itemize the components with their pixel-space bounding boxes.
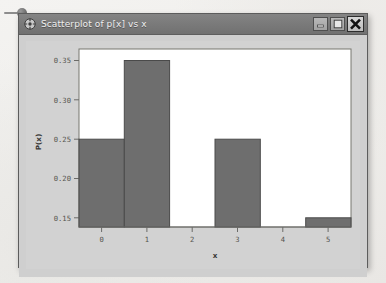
- window-title: Scatterplot of p[x] vs x: [41, 19, 313, 30]
- bar-x3: [215, 139, 260, 227]
- window-controls: [313, 16, 364, 32]
- x-tick-label: 2: [190, 235, 194, 244]
- bar-x1: [124, 61, 169, 228]
- y-tick-label: 0.25: [54, 135, 71, 144]
- chart-panel: 0.35 0.30 0.25 0.20 0.15 P(x): [26, 41, 360, 269]
- window-body: 0.35 0.30 0.25 0.20 0.15 P(x): [19, 35, 367, 277]
- minimize-button[interactable]: [313, 17, 328, 31]
- bar-x5: [306, 218, 351, 227]
- y-tick-label: 0.35: [54, 56, 71, 65]
- minimize-icon: [316, 20, 325, 29]
- bar-x0: [79, 139, 124, 227]
- x-tick-label: 0: [99, 235, 103, 244]
- x-tick-label: 4: [281, 235, 285, 244]
- maximize-icon: [333, 19, 343, 29]
- close-icon: [349, 18, 362, 31]
- x-axis-title: x: [213, 251, 218, 260]
- x-tick-label: 3: [235, 235, 239, 244]
- close-button[interactable]: [347, 16, 364, 32]
- y-tick-label: 0.15: [54, 214, 71, 223]
- window-title-bar[interactable]: Scatterplot of p[x] vs x: [19, 14, 367, 35]
- y-axis-title: P(x): [34, 134, 43, 150]
- maximize-button[interactable]: [330, 17, 345, 31]
- plot-window[interactable]: Scatterplot of p[x] vs x: [18, 13, 368, 268]
- crosshair-circle-icon: [24, 18, 36, 30]
- y-tick-label: 0.30: [54, 96, 71, 105]
- y-tick-label: 0.20: [54, 174, 71, 183]
- bar-chart: 0.35 0.30 0.25 0.20 0.15 P(x): [26, 41, 360, 269]
- x-tick-label: 1: [145, 235, 149, 244]
- x-tick-label: 5: [326, 235, 330, 244]
